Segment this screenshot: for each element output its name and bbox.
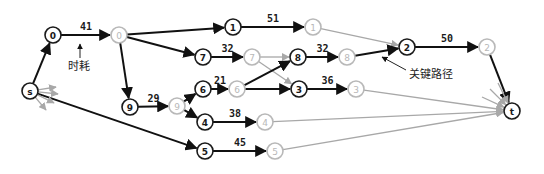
edge-weight: 32 xyxy=(221,43,233,54)
node-1a: 1 xyxy=(225,19,241,35)
node-label: 8 xyxy=(295,53,301,63)
node-t: t xyxy=(504,103,520,119)
edge-0b-7a xyxy=(127,37,195,55)
node-label: 6 xyxy=(234,85,240,95)
node-label: 0 xyxy=(116,31,122,41)
node-4a: 4 xyxy=(197,114,213,130)
node-9a: 9 xyxy=(122,99,138,115)
node-label: 3 xyxy=(353,85,359,95)
stub-arrows-layer xyxy=(35,83,508,110)
critical-path-diagram: 41513232502921363845 s001122778899663344… xyxy=(0,0,544,174)
node-7b: 7 xyxy=(244,49,260,65)
edge-weight: 21 xyxy=(214,75,226,86)
node-0a: 0 xyxy=(45,27,61,43)
edges-layer xyxy=(33,27,509,151)
node-8a: 8 xyxy=(290,49,306,65)
node-1b: 1 xyxy=(305,19,321,35)
node-label: 5 xyxy=(272,147,278,157)
edge-s-0a xyxy=(33,43,50,83)
edge-8b-2a xyxy=(355,48,398,55)
edge-5b-t xyxy=(283,112,503,149)
edge-9a-9b xyxy=(138,106,168,107)
edge-weight: 32 xyxy=(316,43,328,54)
critical-path-label: 关键路径 xyxy=(409,67,453,81)
node-3a: 3 xyxy=(291,81,307,97)
node-9b: 9 xyxy=(169,98,185,114)
edge-weight: 50 xyxy=(441,33,453,44)
node-label: s xyxy=(27,87,32,97)
stub-arrow-from-s xyxy=(38,87,56,90)
node-5b: 5 xyxy=(267,143,283,159)
node-label: 4 xyxy=(202,118,208,128)
node-6a: 6 xyxy=(195,81,211,97)
stub-arrow-from-s xyxy=(38,92,58,94)
time-cost-label: 时耗 xyxy=(68,60,90,73)
edge-weight: 51 xyxy=(267,13,279,24)
node-label: 4 xyxy=(262,118,268,128)
node-7a: 7 xyxy=(195,49,211,65)
node-6b: 6 xyxy=(229,81,245,97)
node-2a: 2 xyxy=(399,39,415,55)
node-5a: 5 xyxy=(197,143,213,159)
edge-3b-t xyxy=(364,90,503,110)
node-label: 1 xyxy=(230,23,236,33)
stub-arrow-into-t xyxy=(482,97,504,107)
edge-0b-9a xyxy=(120,43,128,98)
node-label: 5 xyxy=(202,147,208,157)
edge-weight: 29 xyxy=(147,93,159,104)
node-label: 3 xyxy=(296,85,302,95)
edge-weight: 41 xyxy=(80,21,92,32)
edge-9b-6a xyxy=(184,94,196,102)
stub-arrow-from-s xyxy=(35,97,46,110)
node-label: t xyxy=(510,107,515,117)
annotation-arrow-icon xyxy=(382,57,406,70)
time-cost-annotation: 时耗 xyxy=(68,44,90,73)
node-label: 7 xyxy=(249,53,255,63)
edge-7b-3a xyxy=(259,62,292,84)
edge-4b-t xyxy=(273,111,503,121)
edge-weight: 45 xyxy=(234,137,246,148)
edge-9b-4a xyxy=(184,110,197,118)
edge-weight: 38 xyxy=(229,108,241,119)
node-label: 0 xyxy=(50,31,56,41)
node-label: 6 xyxy=(200,85,206,95)
node-3b: 3 xyxy=(348,81,364,97)
edge-0b-1a xyxy=(127,28,224,35)
node-label: 2 xyxy=(404,43,410,53)
node-2b: 2 xyxy=(479,39,495,55)
node-8b: 8 xyxy=(339,49,355,65)
node-label: 9 xyxy=(174,102,180,112)
node-label: 8 xyxy=(344,53,350,63)
critical-path-annotation: 关键路径 xyxy=(382,57,453,81)
node-label: 1 xyxy=(310,23,316,33)
edge-1b-2a xyxy=(321,29,398,45)
node-s: s xyxy=(22,83,38,99)
node-0b: 0 xyxy=(111,27,127,43)
edge-2b-t xyxy=(490,54,509,102)
node-label: 7 xyxy=(200,53,206,63)
edge-weight: 36 xyxy=(321,75,333,86)
node-label: 9 xyxy=(127,103,133,113)
node-label: 2 xyxy=(484,43,490,53)
node-4b: 4 xyxy=(257,114,273,130)
